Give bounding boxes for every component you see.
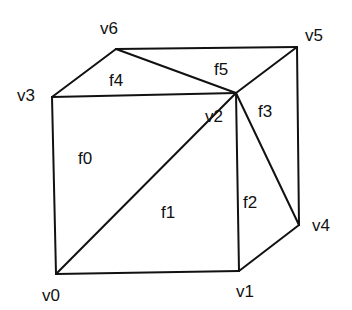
vertex-label-v3: v3 bbox=[17, 86, 35, 105]
vertex-label-v4: v4 bbox=[312, 216, 330, 235]
face-label-f3: f3 bbox=[258, 102, 272, 121]
face-label-f2: f2 bbox=[243, 193, 257, 212]
face-label-f5: f5 bbox=[214, 60, 228, 79]
edge-v0-v3 bbox=[52, 97, 56, 274]
edge-v3-v6 bbox=[52, 49, 116, 97]
cube-mesh-diagram: f0f1f2f3f4f5 v0v1v2v3v4v5v6 bbox=[0, 0, 352, 310]
edge-v3-v2 bbox=[52, 93, 236, 97]
edge-v0-v1 bbox=[56, 271, 239, 274]
face-label-f0: f0 bbox=[78, 149, 92, 168]
edge-v6-v5 bbox=[116, 47, 297, 49]
edge-v1-v2 bbox=[236, 93, 239, 271]
edge-v4-v5 bbox=[297, 47, 299, 225]
vertex-label-v5: v5 bbox=[305, 26, 323, 45]
edge-v1-v4 bbox=[239, 225, 299, 271]
vertex-label-v1: v1 bbox=[236, 282, 254, 301]
vertex-label-v0: v0 bbox=[42, 286, 60, 305]
vertex-label-v6: v6 bbox=[100, 19, 118, 38]
vertex-labels: v0v1v2v3v4v5v6 bbox=[17, 19, 330, 305]
edge-v2-v5 bbox=[236, 47, 297, 93]
vertex-label-v2: v2 bbox=[205, 107, 223, 126]
face-labels: f0f1f2f3f4f5 bbox=[78, 60, 272, 222]
face-label-f1: f1 bbox=[161, 203, 175, 222]
face-label-f4: f4 bbox=[109, 71, 123, 90]
